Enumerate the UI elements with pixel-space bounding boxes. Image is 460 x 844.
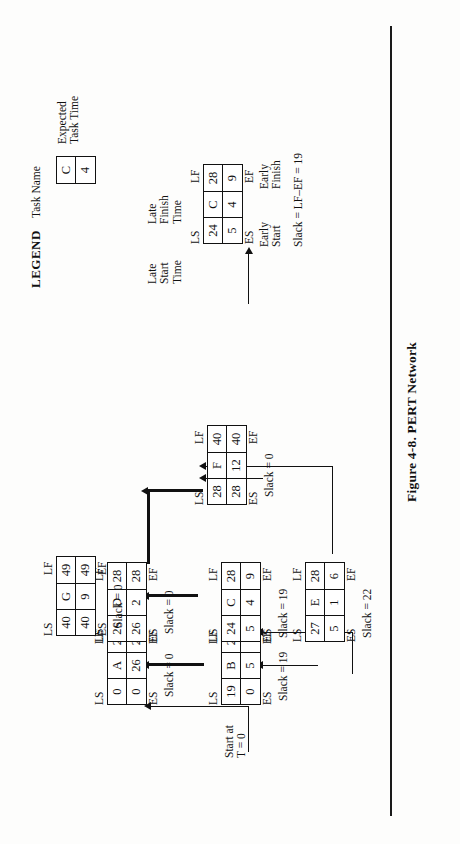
- legend-late-finish-label: Late Finish Time: [146, 195, 183, 224]
- node-g-name: G: [57, 583, 76, 609]
- node-f: 28 F 40 28 12 40: [207, 425, 247, 505]
- legend-late-start-line3: Time: [171, 260, 183, 284]
- node-c-duration: 4: [241, 589, 260, 615]
- start-label-line2: T = 0: [235, 733, 247, 758]
- legend-task-name-label: Task Name: [30, 166, 42, 218]
- node-a-es-header: ES: [147, 692, 159, 705]
- node-e: 27 E 28 5 1 6: [305, 562, 345, 642]
- connector-start-horizontal: [248, 706, 249, 752]
- node-g-lf: 49: [57, 557, 76, 583]
- node-f-lf: 40: [208, 426, 227, 452]
- node-a-duration: 26: [127, 652, 146, 678]
- node-c: 24 C 28 5 4 9: [221, 562, 261, 642]
- node-c-es-header: ES: [261, 629, 273, 642]
- legend-title: LEGEND: [28, 230, 44, 288]
- node-f-ls: 28: [208, 478, 227, 504]
- arrowhead-c-to-f: [199, 474, 206, 482]
- node-d-ef-header: EF: [147, 568, 159, 581]
- node-c-name: C: [222, 589, 241, 615]
- node-e-lf: 28: [306, 563, 325, 589]
- node-c-lf-header: LF: [207, 568, 219, 581]
- connector-a-to-d: [148, 663, 204, 666]
- node-a-name: A: [108, 652, 127, 678]
- node-a-slack: Slack = 0: [163, 653, 175, 697]
- legend-slack-formula: Slack = LF–EF = 19: [292, 153, 304, 247]
- legend-early-start-label: Early Start: [258, 222, 283, 247]
- start-label-line1: Start at: [223, 725, 235, 758]
- legend-late-start-line2: Start: [158, 262, 170, 284]
- figure-divider-rule: [390, 26, 392, 816]
- legend-early-start-line2: Start: [270, 225, 282, 247]
- node-c-lf: 28: [222, 563, 241, 589]
- legend-sample-es-header: ES: [243, 231, 255, 244]
- node-g: 40 G 49 40 9 49: [56, 556, 96, 636]
- node-g-duration: 9: [76, 583, 95, 609]
- node-a-ls-header: LS: [93, 692, 105, 705]
- legend-sample-duration: 4: [223, 191, 242, 217]
- node-f-slack: Slack = 0: [263, 453, 275, 497]
- legend-sample-lf-header: LF: [189, 170, 201, 183]
- node-e-es: 5: [325, 615, 344, 641]
- node-f-es-header: ES: [247, 492, 259, 505]
- figure-page: Start at T = 0 LS LF 0 A 26 0 26 26 ES E…: [0, 0, 460, 844]
- node-e-name: E: [306, 589, 325, 615]
- node-f-es: 28: [227, 478, 246, 504]
- node-b-ls: 19: [222, 678, 241, 704]
- rotated-figure-canvas: Start at T = 0 LS LF 0 A 26 0 26 26 ES E…: [0, 0, 460, 844]
- node-f-ef-header: EF: [247, 431, 259, 444]
- legend-early-finish-line1: Early: [258, 164, 270, 189]
- legend-late-finish-line3: Time: [171, 200, 183, 224]
- node-b-slack: Slack = 19: [277, 652, 289, 701]
- legend-late-start-label: Late Start Time: [146, 260, 183, 284]
- node-e-ls-header: LS: [291, 629, 303, 642]
- node-f-duration: 12: [227, 452, 246, 478]
- legend-late-finish-line2: Finish: [158, 195, 170, 224]
- connector-start-vertical: [150, 706, 249, 707]
- node-b-es: 0: [241, 678, 260, 704]
- legend-late-finish-line1: Late: [146, 204, 158, 224]
- legend-early-finish-label: Early Finish: [258, 160, 283, 189]
- node-d-es-header: ES: [147, 629, 159, 642]
- legend-sample-ls-header: LS: [189, 231, 201, 244]
- legend-sample-ls: 24: [204, 217, 223, 243]
- figure-caption: Figure 4-8. PERT Network: [404, 0, 420, 844]
- node-g-ef-header: EF: [96, 562, 108, 575]
- node-e-ef-header: EF: [345, 568, 357, 581]
- legend-mini-node-duration: 4: [76, 157, 95, 183]
- connector-e-to-f-horizontal: [332, 466, 333, 554]
- node-b-ls-header: LS: [207, 692, 219, 705]
- connector-d-to-f-horizontal: [147, 490, 150, 564]
- node-e-ls: 27: [306, 615, 325, 641]
- node-d-slack: Slack = 0: [163, 590, 175, 634]
- legend-expected-line2: Task Time: [68, 96, 80, 144]
- node-b-duration: 5: [241, 652, 260, 678]
- node-f-ef: 40: [227, 426, 246, 452]
- node-g-es: 40: [76, 609, 95, 635]
- node-b-name: B: [222, 652, 241, 678]
- node-e-es-header: ES: [345, 629, 357, 642]
- node-c-ef: 9: [241, 563, 260, 589]
- node-c-ls-header: LS: [207, 629, 219, 642]
- legend-early-start-line1: Early: [258, 222, 270, 247]
- node-e-ef: 6: [325, 563, 344, 589]
- node-c-slack: Slack = 19: [277, 589, 289, 638]
- node-g-lf-header: LF: [42, 562, 54, 575]
- node-e-duration: 1: [325, 589, 344, 615]
- node-c-es: 5: [241, 615, 260, 641]
- legend-pointer-line: [248, 252, 249, 304]
- node-f-lf-header: LF: [193, 431, 205, 444]
- legend-late-start-line1: Late: [146, 264, 158, 284]
- legend-mini-node-name: C: [57, 157, 76, 183]
- legend-early-finish-line2: Finish: [270, 160, 282, 189]
- node-g-ls: 40: [57, 609, 76, 635]
- node-c-ef-header: EF: [261, 568, 273, 581]
- node-d-ef: 28: [127, 563, 146, 589]
- node-e-lf-header: LF: [291, 568, 303, 581]
- node-g-ef: 49: [76, 557, 95, 583]
- legend-sample-es: 5: [223, 217, 242, 243]
- legend-sample-node: 24 C 28 5 4 9: [203, 164, 243, 244]
- legend-pointer-arrowhead: [245, 247, 253, 254]
- node-b-es-header: ES: [261, 692, 273, 705]
- legend-sample-ef: 9: [223, 165, 242, 191]
- legend-mini-node: C 4: [56, 156, 96, 184]
